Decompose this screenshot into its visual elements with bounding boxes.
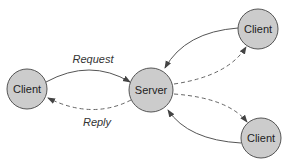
node-server: Server xyxy=(129,68,173,112)
edge-bottom-client-to-server-arrow xyxy=(168,110,241,143)
node-label: Client xyxy=(13,83,41,95)
edge-server-to-top-client-arrow xyxy=(174,47,246,84)
node-label: Server xyxy=(135,84,168,96)
edge-reply-arrow xyxy=(48,98,131,110)
edge-server-to-bottom-client-arrow xyxy=(174,94,247,122)
client-server-diagram: Request Reply Client Server Client Clien… xyxy=(0,0,293,168)
node-label: Client xyxy=(244,23,272,35)
node-client-top-right: Client xyxy=(238,9,278,49)
reply-label: Reply xyxy=(83,116,113,128)
edge-top-client-to-server-arrow xyxy=(165,28,238,68)
edge-request-arrow xyxy=(46,70,130,82)
node-label: Client xyxy=(247,132,275,144)
node-client-left: Client xyxy=(7,69,47,109)
node-client-bottom-right: Client xyxy=(241,118,281,158)
request-label: Request xyxy=(73,53,115,65)
